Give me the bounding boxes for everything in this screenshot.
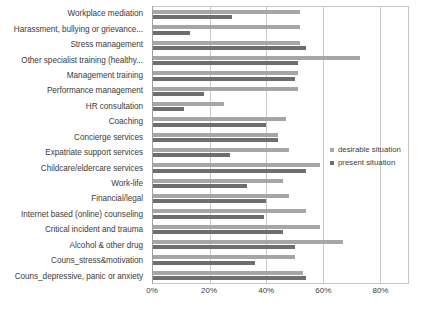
bar-row bbox=[153, 7, 408, 22]
bar-desirable bbox=[153, 255, 295, 259]
bar-present bbox=[153, 138, 278, 142]
bar-desirable bbox=[153, 271, 303, 275]
bar-row bbox=[153, 99, 408, 114]
x-axis-tick: 0% bbox=[146, 286, 158, 295]
bar-present bbox=[153, 245, 295, 249]
bar-present bbox=[153, 153, 230, 157]
bar-present bbox=[153, 15, 232, 19]
bar-present bbox=[153, 169, 306, 173]
bar-present bbox=[153, 199, 266, 203]
category-label: Couns_depressive, panic or anxiety bbox=[0, 268, 148, 283]
bar-present bbox=[153, 77, 295, 81]
legend-item[interactable]: present situation bbox=[330, 156, 422, 169]
category-label: Work-life bbox=[0, 176, 148, 191]
bar-desirable bbox=[153, 56, 360, 60]
category-label: Alcohol & other drug bbox=[0, 238, 148, 253]
bar-row bbox=[153, 206, 408, 221]
category-label: Management training bbox=[0, 68, 148, 83]
bar-row bbox=[153, 237, 408, 252]
legend-label: present situation bbox=[338, 159, 395, 167]
bar-desirable bbox=[153, 209, 306, 213]
category-label: Couns_stress&motivation bbox=[0, 253, 148, 268]
bar-row bbox=[153, 22, 408, 37]
bar-desirable bbox=[153, 163, 320, 167]
bar-desirable bbox=[153, 10, 300, 14]
bar-desirable bbox=[153, 225, 320, 229]
bar-desirable bbox=[153, 41, 300, 45]
bar-row bbox=[153, 252, 408, 267]
category-label: Expatriate support services bbox=[0, 145, 148, 160]
bar-desirable bbox=[153, 71, 298, 75]
bar-present bbox=[153, 123, 266, 127]
category-label: Performance management bbox=[0, 83, 148, 98]
x-axis-tick: 60% bbox=[315, 286, 331, 295]
bar-desirable bbox=[153, 133, 278, 137]
category-label: Workplace mediation bbox=[0, 6, 148, 21]
bar-row bbox=[153, 53, 408, 68]
bar-present bbox=[153, 215, 264, 219]
bar-row bbox=[153, 68, 408, 83]
x-axis-tick: 20% bbox=[201, 286, 217, 295]
bar-desirable bbox=[153, 179, 283, 183]
bar-row bbox=[153, 222, 408, 237]
category-label: Internet based (online) counseling bbox=[0, 207, 148, 222]
legend-item[interactable]: desirable situation bbox=[330, 143, 422, 156]
category-label: Harassment, bullying or grievance... bbox=[0, 21, 148, 36]
bar-present bbox=[153, 261, 255, 265]
bar-desirable bbox=[153, 240, 343, 244]
bar-present bbox=[153, 230, 283, 234]
category-label: Other specialist training (healthy... bbox=[0, 52, 148, 67]
legend-swatch-icon bbox=[330, 148, 334, 152]
bar-present bbox=[153, 61, 298, 65]
bar-row bbox=[153, 268, 408, 283]
bar-present bbox=[153, 107, 184, 111]
bar-desirable bbox=[153, 194, 289, 198]
bar-desirable bbox=[153, 117, 286, 121]
bar-desirable bbox=[153, 102, 224, 106]
category-label: Critical incident and trauma bbox=[0, 222, 148, 237]
legend-label: desirable situation bbox=[338, 146, 401, 154]
category-label: Stress management bbox=[0, 37, 148, 52]
category-label: Childcare/eldercare services bbox=[0, 160, 148, 175]
bar-desirable bbox=[153, 87, 298, 91]
x-axis-tick-labels: 0%20%40%60%80% bbox=[152, 286, 409, 302]
bar-row bbox=[153, 114, 408, 129]
category-axis-labels: Workplace mediationHarassment, bullying … bbox=[0, 6, 148, 284]
bar-desirable bbox=[153, 25, 300, 29]
bar-row bbox=[153, 84, 408, 99]
x-axis-tick: 40% bbox=[258, 286, 274, 295]
bar-present bbox=[153, 184, 247, 188]
x-axis-tick: 80% bbox=[372, 286, 388, 295]
category-label: Concierge services bbox=[0, 130, 148, 145]
bar-row bbox=[153, 191, 408, 206]
bar-present bbox=[153, 46, 306, 50]
chart-legend: desirable situationpresent situation bbox=[330, 143, 422, 169]
category-label: Coaching bbox=[0, 114, 148, 129]
bar-chart: Workplace mediationHarassment, bullying … bbox=[0, 0, 424, 311]
bar-present bbox=[153, 276, 306, 280]
category-label: Financial/legal bbox=[0, 191, 148, 206]
legend-swatch-icon bbox=[330, 161, 334, 165]
category-label: HR consultation bbox=[0, 99, 148, 114]
bar-desirable bbox=[153, 148, 289, 152]
bar-present bbox=[153, 92, 204, 96]
bar-row bbox=[153, 176, 408, 191]
bar-present bbox=[153, 31, 190, 35]
bar-row bbox=[153, 38, 408, 53]
